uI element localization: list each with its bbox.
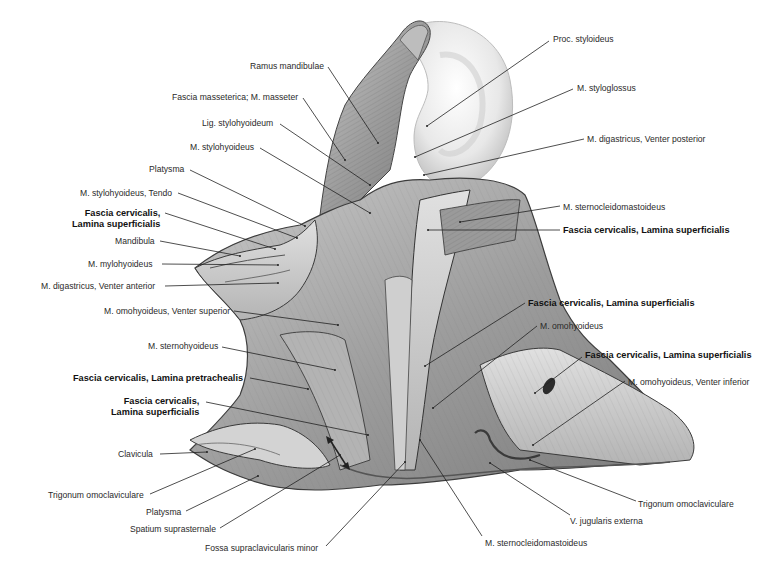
leader-dot-m-stylohyoideus-tendo	[296, 237, 298, 239]
leader-dot-m-digastricus-anterior	[277, 282, 279, 284]
label-line-2: Lamina superficialis	[111, 407, 199, 418]
label-fascia-cervicalis-right-3: Fascia cervicalis, Lamina superficialis	[585, 350, 752, 361]
leader-dot-fossa-supraclavicularis-minor	[404, 461, 406, 463]
leader-dot-m-styloglossus	[414, 156, 416, 158]
leader-dot-trigonum-omoclaviculare-right	[529, 459, 531, 461]
label-m-stylohyoideus-tendo: M. stylohyoideus, Tendo	[80, 188, 172, 199]
leader-dot-fascia-cervicalis-right-1	[427, 229, 429, 231]
label-fascia-pretrachealis: Fascia cervicalis, Lamina pretrachealis	[73, 373, 243, 384]
label-m-mylohyoideus: M. mylohyoideus	[88, 259, 152, 270]
label-fascia-cervicalis-left-1: Fascia cervicalis, Lamina superficialis	[72, 208, 160, 229]
label-ramus-mandibulae: Ramus mandibulae	[250, 61, 324, 72]
leader-dot-fascia-cervicalis-left-2	[367, 434, 369, 436]
leader-dot-platysma-bottom	[257, 475, 259, 477]
leader-dot-v-jugularis-externa	[489, 462, 491, 464]
leader-dot-m-sternohyoideus	[334, 369, 336, 371]
leader-dot-m-sternocleidomastoideus-bottom	[419, 439, 421, 441]
leader-dot-proc-styloideus	[426, 125, 428, 127]
label-line-1: Fascia cervicalis,	[72, 208, 160, 219]
label-fascia-cervicalis-left-2: Fascia cervicalis, Lamina superficialis	[111, 396, 199, 417]
leader-dot-spatium-suprasternale	[339, 454, 341, 456]
leader-dot-m-omohyoideus-inferior	[532, 444, 534, 446]
leader-dot-fascia-cervicalis-left-1	[274, 248, 276, 250]
label-m-styloglossus: M. styloglossus	[577, 83, 636, 94]
leader-dot-mandibula	[239, 255, 241, 257]
label-platysma-bottom: Platysma	[146, 507, 181, 518]
leader-dot-m-mylohyoideus	[277, 264, 279, 266]
label-fascia-masseterica: Fascia masseterica; M. masseter	[172, 92, 298, 103]
label-mandibula: Mandibula	[115, 236, 155, 247]
leader-line-fascia-cervicalis-left-1	[165, 213, 275, 249]
label-m-omohyoideus: M. omohyoideus	[540, 321, 603, 332]
label-m-sternohyoideus: M. sternohyoideus	[148, 341, 218, 352]
label-m-sternocleidomastoideus-top: M. sternocleidomastoideus	[563, 202, 665, 213]
leader-dot-m-stylohyoideus	[369, 212, 371, 214]
label-v-jugularis-externa: V. jugularis externa	[570, 516, 643, 527]
label-m-stylohyoideus: M. stylohyoideus	[190, 142, 254, 153]
leader-dot-lig-stylohyoideum	[369, 184, 371, 186]
label-proc-styloideus: Proc. styloideus	[553, 34, 614, 45]
leader-line-platysma-top	[190, 170, 305, 226]
label-trigonum-omoclaviculare-left: Trigonum omoclaviculare	[48, 490, 144, 501]
leader-line-m-stylohyoideus-tendo	[178, 193, 297, 238]
leader-line-platysma-bottom	[186, 476, 258, 511]
leader-dot-m-omohyoideus-superior	[337, 324, 339, 326]
label-m-omohyoideus-inferior: M. omohyoideus, Venter inferior	[628, 377, 749, 388]
leader-dot-m-digastricus-posterior	[423, 174, 425, 176]
label-fascia-cervicalis-right-2: Fascia cervicalis, Lamina superficialis	[528, 298, 695, 309]
label-fascia-cervicalis-right-1: Fascia cervicalis, Lamina superficialis	[563, 225, 730, 236]
label-m-digastricus-posterior: M. digastricus, Venter posterior	[587, 134, 705, 145]
label-spatium-suprasternale: Spatium suprasternale	[130, 524, 216, 535]
leader-dot-clavicula	[206, 451, 208, 453]
label-m-digastricus-anterior: M. digastricus, Venter anterior	[41, 281, 155, 292]
leader-dot-fascia-pretrachealis	[307, 388, 309, 390]
label-trigonum-omoclaviculare-right: Trigonum omoclaviculare	[638, 499, 734, 510]
label-platysma-top: Platysma	[149, 164, 184, 175]
leader-dot-m-sternocleidomastoideus-top	[459, 221, 461, 223]
leader-dot-trigonum-omoclaviculare-left	[254, 448, 256, 450]
label-clavicula: Clavicula	[118, 449, 153, 460]
leader-dot-m-omohyoideus	[432, 407, 434, 409]
label-line-1: Fascia cervicalis,	[111, 396, 199, 407]
label-m-omohyoideus-superior: M. omohyoideus, Venter superior	[104, 306, 230, 317]
leader-dot-fascia-cervicalis-right-2	[424, 365, 426, 367]
leader-dot-fascia-cervicalis-right-3	[534, 392, 536, 394]
anatomical-figure: Ramus mandibulae Fascia masseterica; M. …	[0, 0, 778, 578]
label-m-sternocleidomastoideus-bottom: M. sternocleidomastoideus	[485, 538, 587, 549]
label-fossa-supraclavicularis-minor: Fossa supraclavicularis minor	[205, 543, 318, 554]
label-lig-stylohyoideum: Lig. stylohyoideum	[202, 118, 273, 129]
leader-dot-fascia-masseterica	[344, 159, 346, 161]
leader-dot-ramus-mandibulae	[377, 142, 379, 144]
label-line-2: Lamina superficialis	[72, 219, 160, 230]
leader-dot-platysma-top	[304, 225, 306, 227]
